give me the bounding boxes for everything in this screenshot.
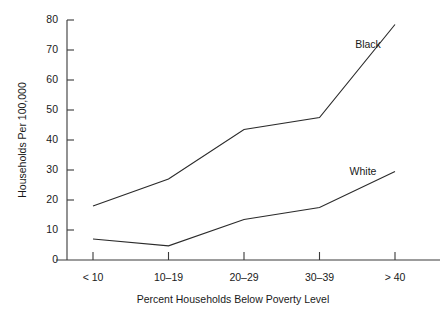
x-tick-label: < 10: [83, 271, 104, 283]
x-tick-label: 30–39: [305, 271, 334, 283]
y-tick-label: 20: [46, 193, 58, 205]
y-tick-label: 10: [46, 223, 58, 235]
y-axis-title: Households Per 100,000: [16, 82, 28, 198]
y-tick-mark-group: [67, 20, 74, 230]
y-tick-label-group: 01020304050607080: [46, 13, 58, 265]
y-tick-label: 40: [46, 133, 58, 145]
y-tick-label: 30: [46, 163, 58, 175]
series-line-group: [93, 25, 395, 246]
chart-container: Households Per 100,000 01020304050607080…: [0, 0, 447, 329]
series-line-black: [93, 25, 395, 207]
series-line-white: [93, 172, 395, 246]
x-tick-label: 20–29: [229, 271, 258, 283]
x-axis-title: Percent Households Below Poverty Level: [137, 293, 330, 305]
series-label-black: Black: [355, 38, 381, 50]
x-tick-label: > 40: [385, 271, 406, 283]
y-tick-label: 0: [52, 253, 58, 265]
line-chart: Households Per 100,000 01020304050607080…: [0, 0, 447, 329]
x-tick-label-group: < 1010–1920–2930–39> 40: [83, 271, 406, 283]
series-label-white: White: [350, 165, 377, 177]
y-tick-label: 80: [46, 13, 58, 25]
x-tick-mark-group: [93, 252, 395, 260]
y-tick-label: 70: [46, 43, 58, 55]
y-tick-label: 60: [46, 73, 58, 85]
y-tick-label: 50: [46, 103, 58, 115]
x-tick-label: 10–19: [154, 271, 183, 283]
